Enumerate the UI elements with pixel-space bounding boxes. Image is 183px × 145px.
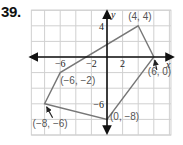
x-tick-label: −2 [86, 58, 97, 69]
x-tick-label: −6 [55, 58, 66, 69]
tick-labels: −6−224−6 [55, 21, 125, 110]
x-tick-label: 2 [120, 58, 125, 69]
vertex-label: (−6, −2) [60, 75, 95, 86]
y-axis-label: y [110, 9, 116, 20]
pointer-arrow-neg8-neg6 [47, 107, 53, 118]
vertex-label: (0, −8) [110, 111, 139, 122]
y-tick-label: 4 [99, 21, 104, 32]
y-tick-label: −6 [93, 99, 104, 110]
vertex-label: (4, 4) [128, 11, 151, 22]
vertex-label: (−8, −6) [33, 118, 68, 129]
vertex-label: (6, 0) [148, 66, 171, 77]
coordinate-plane: xy −6−224−6 (4, 4)(6, 0)(0, −8)(−8, −6)(… [0, 0, 183, 145]
